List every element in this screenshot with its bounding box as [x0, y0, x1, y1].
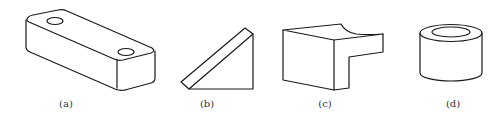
lblock-step — [334, 34, 383, 90]
label-d: (d) — [446, 98, 460, 109]
panel-b-prism — [181, 28, 253, 89]
prism-chamfer-face — [181, 28, 253, 89]
block-left-edge — [26, 20, 125, 90]
label-b: (b) — [200, 98, 214, 109]
cylinder-body — [420, 33, 482, 81]
lblock-top — [283, 24, 383, 40]
hole-left — [47, 18, 63, 25]
panel-c-block — [283, 24, 383, 90]
panel-a-block — [26, 10, 155, 91]
label-a: (a) — [59, 98, 73, 109]
hole-right — [118, 49, 134, 56]
label-c: (c) — [318, 98, 332, 109]
block-right-face — [125, 51, 155, 90]
figure-canvas: (a) (b) (c) (d) — [0, 0, 500, 122]
cylinder-inner-hole — [432, 27, 470, 37]
panel-d-cylinder — [420, 25, 482, 82]
block-top-face — [27, 10, 154, 61]
